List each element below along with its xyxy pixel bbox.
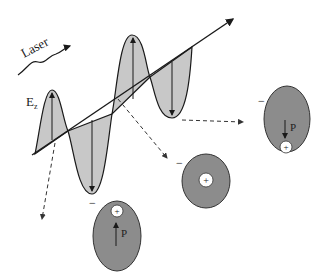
dashed-arrow-to-right-atom xyxy=(182,120,243,122)
plus-sign: + xyxy=(203,175,209,186)
dipole-label: P xyxy=(290,121,296,133)
field-label-main: E xyxy=(26,94,34,109)
minus-sign: − xyxy=(258,94,265,108)
wave-lobe-4 xyxy=(150,47,192,118)
wave-lobe-3 xyxy=(112,35,150,114)
atom-right: + P − xyxy=(258,86,310,153)
atom-middle: + − xyxy=(176,154,230,208)
laser-atom-polarization-diagram: Laser Ez + P − + − + P − xyxy=(0,0,325,280)
minus-sign: − xyxy=(89,196,96,210)
field-label: Ez xyxy=(26,94,38,111)
minus-sign: − xyxy=(176,156,183,170)
field-label-sub: z xyxy=(34,102,38,111)
dashed-arrow-to-bottom-left xyxy=(42,143,55,219)
dipole-label: P xyxy=(121,227,127,239)
plus-sign: + xyxy=(283,142,288,152)
plus-sign: + xyxy=(114,206,119,216)
laser-label: Laser xyxy=(18,34,51,61)
atom-bottom: + P − xyxy=(89,196,141,271)
